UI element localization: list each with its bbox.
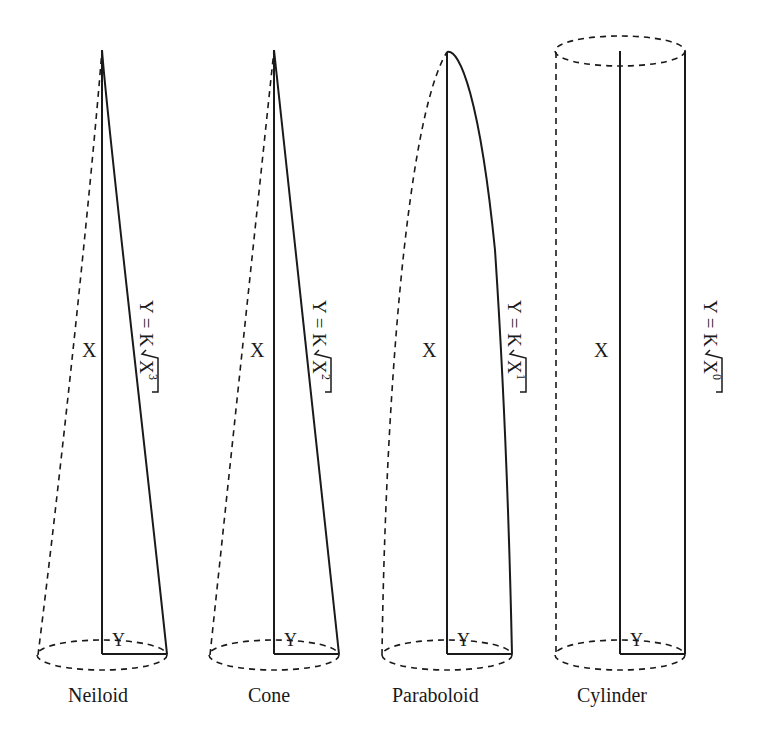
neiloid-profile-curve	[102, 50, 167, 654]
cone-formula: Y = K X 2	[309, 300, 333, 392]
cylinder-y-label: Y	[630, 630, 643, 650]
svg-text:Y = K: Y = K	[136, 300, 157, 347]
svg-text:X: X	[700, 360, 721, 374]
svg-text:Y = K: Y = K	[700, 300, 721, 347]
svg-text:Y = K: Y = K	[504, 300, 525, 347]
cylinder-name-label: Cylinder	[577, 684, 647, 707]
cylinder-formula: Y = K X 0	[700, 300, 724, 392]
svg-text:0: 0	[710, 374, 724, 380]
paraboloid-formula: Y = K X 1	[504, 300, 528, 392]
svg-text:2: 2	[319, 374, 333, 380]
svg-text:X: X	[309, 360, 330, 374]
svg-text:3: 3	[146, 374, 160, 380]
svg-text:Y = K: Y = K	[309, 300, 330, 347]
neiloid-x-label: X	[82, 339, 97, 361]
paraboloid-y-label: Y	[457, 630, 470, 650]
paraboloid-profile-curve	[447, 52, 512, 654]
svg-text:X: X	[504, 360, 525, 374]
paraboloid-dashed-profile	[382, 52, 447, 655]
cone-y-label: Y	[284, 630, 297, 650]
svg-text:X: X	[136, 360, 157, 374]
neiloid-name-label: Neiloid	[68, 684, 128, 706]
cone-figure: X Y Y = K X 2 Cone	[209, 50, 339, 706]
neiloid-y-label: Y	[112, 630, 125, 650]
neiloid-figure: X Y Y = K X 3 Neiloid	[37, 50, 167, 706]
cylinder-figure: X Y Y = K X 0 Cylinder	[555, 36, 724, 707]
cone-name-label: Cone	[248, 684, 290, 706]
paraboloid-x-label: X	[422, 339, 437, 361]
neiloid-formula: Y = K X 3	[136, 300, 160, 392]
paraboloid-name-label: Paraboloid	[392, 684, 479, 706]
paraboloid-figure: X Y Y = K X 1 Paraboloid	[382, 52, 528, 706]
solids-of-revolution-diagram: X Y Y = K X 3 Neiloid X Y Y = K X 2 Cone	[0, 0, 763, 741]
svg-text:1: 1	[514, 374, 528, 380]
cone-x-label: X	[250, 339, 265, 361]
cone-profile-line	[274, 50, 339, 654]
cylinder-x-label: X	[594, 339, 609, 361]
